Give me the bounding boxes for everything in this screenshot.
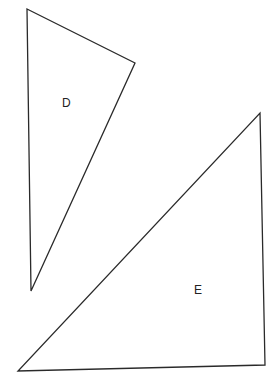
triangle-e (18, 113, 265, 371)
triangle-e-label: E (194, 283, 202, 297)
triangle-d (27, 9, 135, 291)
triangle-d-label: D (62, 96, 71, 110)
diagram-canvas: D E (0, 0, 271, 388)
